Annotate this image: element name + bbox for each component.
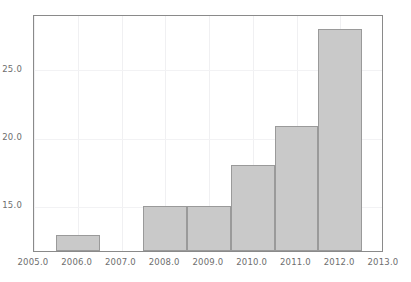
bar [275,126,319,251]
gridline-vertical [78,16,79,251]
bar [187,206,231,251]
y-tick-label: 25.0 [0,65,22,74]
bar [143,206,187,251]
bar [56,235,100,251]
gridline-vertical [122,16,123,251]
y-tick-label: 15.0 [0,201,22,210]
bar-chart: 15.020.025.0 2005.02006.02007.02008.0200… [0,0,411,282]
bar [231,165,275,251]
x-tick-label: 2013.0 [357,258,409,267]
gridline-vertical [34,16,35,251]
y-tick-label: 20.0 [0,133,22,142]
bar [318,29,362,251]
plot-area [33,15,383,252]
